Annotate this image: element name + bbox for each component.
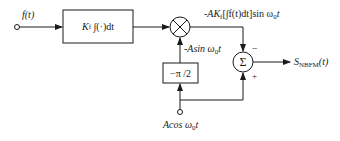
summer-sign-top: − bbox=[252, 44, 258, 54]
phase-shift-label: −π /2 bbox=[163, 63, 198, 83]
carrier-input-label: Acos ω0t bbox=[163, 120, 198, 132]
multiplier-output-label: -AKf[∫f(t)dt]sin ω0t bbox=[204, 9, 279, 21]
input-terminal bbox=[15, 25, 20, 30]
phase-shift-output-label: -Asin ω0t bbox=[184, 44, 221, 56]
summer-symbol: Σ bbox=[233, 52, 253, 72]
integrator-label: Kf ∫(·)dt bbox=[63, 10, 133, 43]
input-label: f(t) bbox=[22, 10, 34, 20]
output-label: SNBFM(t) bbox=[294, 57, 328, 69]
carrier-terminal bbox=[178, 110, 183, 115]
summer-sign-bottom: + bbox=[252, 72, 257, 81]
